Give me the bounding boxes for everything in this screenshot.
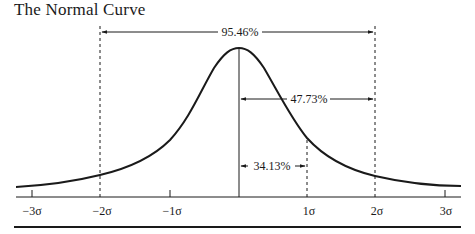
tick-label-neg2: −2σ bbox=[92, 204, 112, 218]
tick-label-neg1: −1σ bbox=[162, 204, 182, 218]
tick-label-pos1: 1σ bbox=[303, 204, 316, 218]
tick-label-pos3: 3σ bbox=[440, 204, 453, 218]
tick-label-neg3: −3σ bbox=[22, 204, 42, 218]
two-sigma-span-label: 95.46% bbox=[222, 25, 259, 39]
mean-to-one-sigma-label: 34.13% bbox=[254, 159, 291, 173]
tick-label-pos2: 2σ bbox=[371, 204, 384, 218]
mean-to-two-sigma-label: 47.73% bbox=[291, 92, 328, 106]
normal-curve-diagram: 95.46% 47.73% 34.13% −3σ −2σ −1σ 1σ 2σ 3… bbox=[0, 0, 475, 234]
